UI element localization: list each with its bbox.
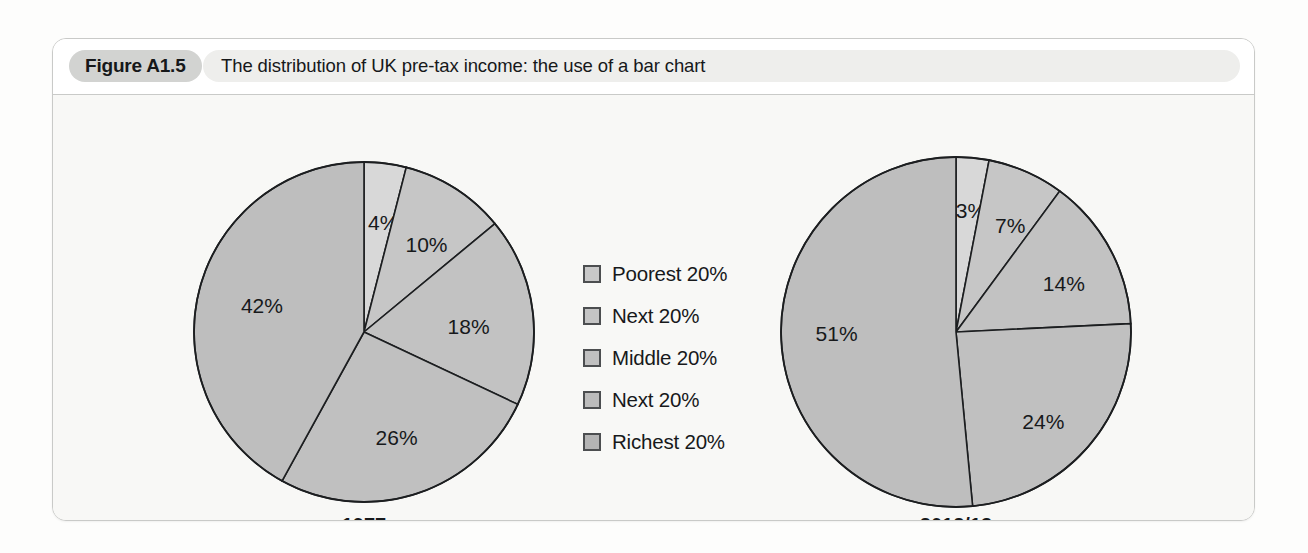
legend-swatch-icon bbox=[583, 391, 601, 409]
figure-caption-pill: The distribution of UK pre-tax income: t… bbox=[203, 50, 1240, 82]
chart-legend: Poorest 20%Next 20%Middle 20%Next 20%Ric… bbox=[583, 253, 773, 463]
figure-frame: Figure A1.5 The distribution of UK pre-t… bbox=[52, 38, 1255, 521]
legend-item: Middle 20% bbox=[583, 337, 773, 379]
pie-chart-year-label: 1977 bbox=[342, 514, 387, 521]
pie-chart-year-label: 2012/13 bbox=[920, 514, 992, 521]
figure-caption: The distribution of UK pre-tax income: t… bbox=[221, 55, 705, 77]
legend-item-label: Richest 20% bbox=[612, 430, 725, 454]
legend-item-label: Next 20% bbox=[612, 388, 699, 412]
legend-item: Poorest 20% bbox=[583, 253, 773, 295]
legend-swatch-icon bbox=[583, 433, 601, 451]
figure-number-badge: Figure A1.5 bbox=[69, 50, 202, 82]
pie-chart-2: 3%7%14%24%51%2012/13 bbox=[781, 157, 1131, 521]
pie-slice-label: 18% bbox=[448, 315, 490, 338]
figure-screenshot: Figure A1.5 The distribution of UK pre-t… bbox=[0, 0, 1308, 553]
pie-slice-label: 26% bbox=[376, 426, 418, 449]
figure-body: 4%10%18%26%42%19773%7%14%24%51%2012/13 P… bbox=[53, 95, 1254, 520]
pie-slice-label: 42% bbox=[241, 294, 283, 317]
legend-swatch-icon bbox=[583, 265, 601, 283]
legend-item: Next 20% bbox=[583, 295, 773, 337]
legend-item-label: Next 20% bbox=[612, 304, 699, 328]
legend-swatch-icon bbox=[583, 349, 601, 367]
pie-slice-label: 51% bbox=[816, 322, 858, 345]
figure-header: Figure A1.5 The distribution of UK pre-t… bbox=[53, 39, 1254, 95]
legend-item-label: Middle 20% bbox=[612, 346, 717, 370]
legend-swatch-icon bbox=[583, 307, 601, 325]
legend-item: Richest 20% bbox=[583, 421, 773, 463]
pie-slice-label: 7% bbox=[995, 214, 1025, 237]
pie-slice-label: 10% bbox=[405, 233, 447, 256]
pie-slice bbox=[781, 157, 973, 507]
pie-slice-label: 24% bbox=[1022, 410, 1064, 433]
pie-chart-1: 4%10%18%26%42%1977 bbox=[194, 162, 534, 521]
legend-item-label: Poorest 20% bbox=[612, 262, 727, 286]
pie-slice-label: 14% bbox=[1043, 272, 1085, 295]
legend-item: Next 20% bbox=[583, 379, 773, 421]
